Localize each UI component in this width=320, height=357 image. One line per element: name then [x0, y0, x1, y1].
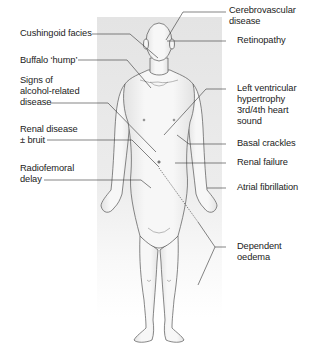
- label-alcohol-disease: Signs of alcohol-related disease: [20, 75, 79, 108]
- label-renal-disease: Renal disease ± bruit: [20, 124, 78, 146]
- label-renal-failure: Renal failure: [237, 157, 288, 168]
- label-line: disease: [229, 16, 296, 27]
- label-line: hypertrophy: [237, 94, 296, 105]
- label-line: Buffalo ‘hump’: [20, 55, 77, 66]
- label-line: disease: [20, 97, 79, 108]
- label-line: Cerebrovascular: [229, 5, 296, 16]
- label-line: ± bruit: [20, 135, 78, 146]
- label-line: Left ventricular: [237, 83, 296, 94]
- label-line: Atrial fibrillation: [237, 182, 298, 193]
- label-line: oedema: [237, 252, 282, 263]
- label-left-ventricular-hypertrophy: Left ventricular hypertrophy 3rd/4th hea…: [237, 83, 296, 127]
- label-cushingoid-facies: Cushingoid facies: [20, 28, 92, 39]
- label-line: 3rd/4th heart: [237, 105, 296, 116]
- label-line: Cushingoid facies: [20, 28, 92, 39]
- label-line: Dependent: [237, 241, 282, 252]
- label-line: Renal disease: [20, 124, 78, 135]
- label-cerebrovascular-disease: Cerebrovascular disease: [229, 5, 296, 27]
- label-basal-crackles: Basal crackles: [237, 138, 296, 149]
- label-line: Radiofemoral: [20, 163, 74, 174]
- label-buffalo-hump: Buffalo ‘hump’: [20, 55, 77, 66]
- label-line: delay: [20, 174, 74, 185]
- label-line: Retinopathy: [237, 35, 286, 46]
- label-line: sound: [237, 116, 296, 127]
- label-line: Renal failure: [237, 157, 288, 168]
- label-line: alcohol-related: [20, 86, 79, 97]
- label-dependent-oedema: Dependent oedema: [237, 241, 282, 263]
- label-retinopathy: Retinopathy: [237, 35, 286, 46]
- label-line: Signs of: [20, 75, 79, 86]
- label-atrial-fibrillation: Atrial fibrillation: [237, 182, 298, 193]
- label-radiofemoral-delay: Radiofemoral delay: [20, 163, 74, 185]
- label-line: Basal crackles: [237, 138, 296, 149]
